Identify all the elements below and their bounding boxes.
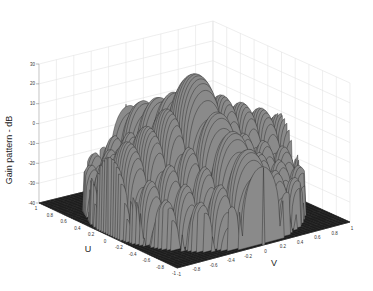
svg-text:-0.6: -0.6 xyxy=(143,258,151,263)
svg-text:0.4: 0.4 xyxy=(74,226,81,231)
v-axis-label: V xyxy=(271,258,277,268)
svg-text:-0.2: -0.2 xyxy=(115,245,123,250)
svg-text:0.6: 0.6 xyxy=(60,219,67,224)
svg-text:0.8: 0.8 xyxy=(47,213,54,218)
svg-text:0.2: 0.2 xyxy=(88,232,95,237)
svg-text:-1: -1 xyxy=(177,272,181,277)
svg-text:-0.8: -0.8 xyxy=(192,267,200,272)
svg-text:0.2: 0.2 xyxy=(280,244,287,249)
svg-text:-30: -30 xyxy=(28,181,35,186)
svg-text:10: 10 xyxy=(30,101,36,106)
svg-text:0.8: 0.8 xyxy=(332,231,339,236)
svg-text:-0.2: -0.2 xyxy=(244,254,252,259)
svg-text:-10: -10 xyxy=(28,141,35,146)
svg-text:1: 1 xyxy=(35,206,38,211)
svg-text:0.4: 0.4 xyxy=(297,240,304,245)
svg-text:-40: -40 xyxy=(28,201,35,206)
svg-text:-1: -1 xyxy=(172,271,176,276)
surface xyxy=(39,74,350,268)
svg-text:-0.8: -0.8 xyxy=(156,265,164,270)
z-axis-label: Gain pattern - dB xyxy=(4,116,14,185)
svg-text:0.6: 0.6 xyxy=(314,235,321,240)
svg-text:0: 0 xyxy=(104,239,107,244)
svg-text:-0.6: -0.6 xyxy=(210,263,218,268)
svg-text:-0.4: -0.4 xyxy=(227,258,235,263)
svg-text:30: 30 xyxy=(30,62,36,67)
svg-text:-20: -20 xyxy=(28,161,35,166)
svg-text:0: 0 xyxy=(32,121,35,126)
svg-text:-0.4: -0.4 xyxy=(129,252,137,257)
svg-text:20: 20 xyxy=(30,81,36,86)
u-axis-label: U xyxy=(85,244,92,254)
surface-plot: 3020100-10-20-30-4010.80.60.40.20-0.2-0.… xyxy=(0,0,373,291)
svg-text:0: 0 xyxy=(264,249,267,254)
svg-text:1: 1 xyxy=(351,226,354,231)
